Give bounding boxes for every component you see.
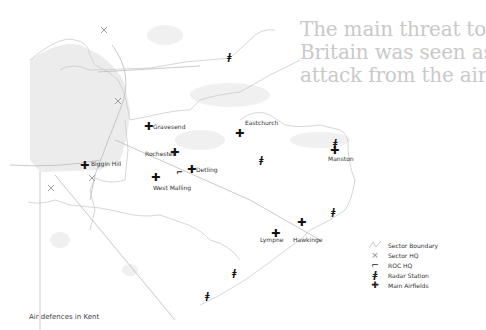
legend-label: Sector Boundary	[388, 242, 438, 249]
london-area	[30, 44, 130, 172]
legend-label: Main Airfields	[388, 282, 429, 289]
legend-label: ROC HQ	[388, 262, 412, 269]
radar-station-icon: ǂ	[259, 157, 263, 165]
legend-label: Radar Station	[388, 272, 429, 279]
legend-item: × Sector HQ	[368, 250, 438, 260]
legend-item: Sector Boundary	[368, 240, 438, 250]
radar-station-icon: ǂ	[205, 293, 209, 301]
airfield-icon: ✚	[151, 172, 160, 183]
headline-line: Britain was seen as	[300, 41, 486, 64]
radar-station-icon: ǂ	[227, 54, 231, 62]
radar-station-icon: ǂ	[232, 270, 236, 278]
place-label-eastchurch: Eastchurch	[245, 119, 278, 126]
legend-label: Sector HQ	[388, 252, 418, 259]
sector-hq-icon: ×	[368, 250, 382, 260]
airfield-icon: ✚	[368, 280, 382, 290]
place-label-rochester: Rochester	[145, 150, 175, 157]
place-label-west-malling: West Malling	[153, 184, 191, 191]
airfield-icon: ✚	[235, 128, 244, 139]
airfield-icon: ✚	[187, 164, 196, 175]
airfield-icon: ✚	[80, 160, 89, 171]
roc-hq-icon: ⌐	[176, 169, 183, 177]
headline-line: The main threat to	[300, 18, 486, 41]
radar-station-icon: ǂ	[331, 209, 335, 217]
place-label-detling: Detling	[196, 166, 218, 173]
headline-line: attack from the air	[300, 64, 486, 87]
legend-item: ✚ Main Airfields	[368, 280, 438, 290]
place-label-biggin-hill: Biggin Hill	[91, 160, 121, 167]
map-caption: Air defences in Kent	[29, 313, 99, 321]
headline: The main threat to Britain was seen as a…	[300, 18, 486, 87]
roc-hq-icon: ⌐	[368, 260, 382, 270]
airfield-icon: ✚	[144, 121, 153, 132]
legend-item: ⌐ ROC HQ	[368, 260, 438, 270]
sector-boundary-icon	[368, 241, 382, 249]
legend-item: ǂ Radar Station	[368, 270, 438, 280]
radar-station-icon: ǂ	[333, 140, 337, 148]
place-label-gravesend: Gravesend	[153, 123, 185, 130]
place-label-lympne: Lympne	[260, 236, 284, 243]
place-label-hawkinge: Hawkinge	[293, 236, 323, 243]
map-legend: Sector Boundary × Sector HQ ⌐ ROC HQ ǂ R…	[368, 240, 438, 290]
airfield-icon: ✚	[297, 217, 306, 228]
place-label-manston: Manston	[328, 155, 354, 162]
radar-station-icon: ǂ	[368, 270, 382, 280]
